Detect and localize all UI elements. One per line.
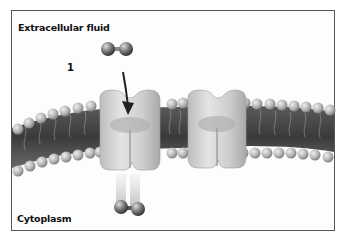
diatomic-molecule-extracellular [101, 42, 133, 56]
channel-protein-left [100, 90, 160, 170]
phospholipid-bilayer [12, 98, 336, 177]
extracellular-fluid-label: Extracellular fluid [18, 22, 110, 33]
channel-protein-right [188, 90, 246, 168]
diatomic-molecule-cytoplasm [114, 174, 145, 216]
membrane-diagram [0, 0, 346, 242]
cytoplasm-label: Cytoplasm [17, 213, 71, 224]
step-number-label: 1 [67, 62, 74, 73]
